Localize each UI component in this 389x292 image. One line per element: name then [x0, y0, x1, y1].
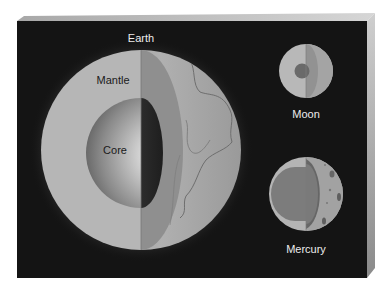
mercury-cutaway — [269, 157, 343, 231]
moon-label: Moon — [292, 108, 320, 120]
diagram-stage: Earth Mantle Core Moon Mercury — [0, 0, 389, 292]
moon-core — [295, 64, 310, 79]
board-bevel-side — [367, 13, 375, 278]
earth-label: Earth — [128, 32, 154, 44]
mantle-label: Mantle — [96, 74, 129, 86]
core-label: Core — [103, 144, 127, 156]
planet-interiors-diagram — [0, 0, 389, 292]
mercury-label: Mercury — [286, 243, 326, 255]
board-bevel-top — [17, 13, 375, 21]
moon-cutaway — [279, 44, 333, 98]
earth-cutaway — [29, 38, 253, 262]
